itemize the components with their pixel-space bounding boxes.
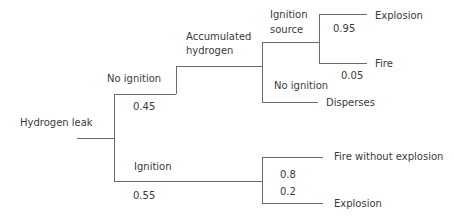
fire-upper-label: Fire	[375, 57, 393, 70]
explosion-upper-label: Explosion	[375, 9, 423, 22]
explosion-upper-probability: 0.95	[333, 22, 355, 35]
fire-upper-probability: 0.05	[341, 69, 363, 82]
ignition-source-label-line1: Ignition	[270, 8, 308, 21]
no-ignition-late-label: No ignition	[274, 79, 328, 92]
accumulated-hydrogen-label-line1: Accumulated	[186, 30, 251, 43]
disperses-label: Disperses	[326, 96, 375, 109]
ignition-label: Ignition	[134, 160, 172, 173]
fire-without-explosion-label: Fire without explosion	[334, 150, 443, 163]
ignition-source-label-line2: source	[270, 23, 303, 36]
explosion-lower-probability: 0.2	[280, 185, 296, 198]
ignition-probability: 0.55	[133, 189, 155, 202]
explosion-lower-label: Explosion	[334, 197, 382, 210]
accumulated-hydrogen-label-line2: hydrogen	[186, 44, 233, 57]
no-ignition-probability: 0.45	[133, 100, 155, 113]
no-ignition-label: No ignition	[107, 72, 161, 85]
fire-without-explosion-probability: 0.8	[280, 168, 296, 181]
root-label: Hydrogen leak	[20, 116, 93, 129]
